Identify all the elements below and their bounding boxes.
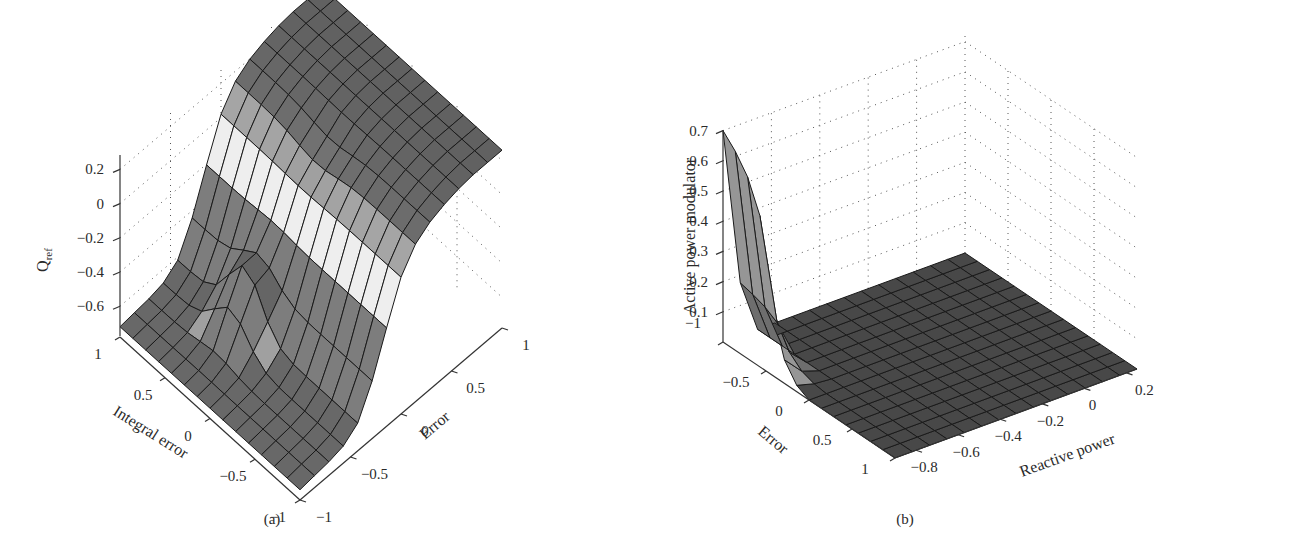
tick-label: −0.5 — [361, 466, 388, 482]
tick-label: 1 — [94, 346, 102, 362]
z-ticks-a: 0.20−0.2−0.4−0.6 — [77, 161, 120, 314]
figure: 0.20−0.2−0.4−0.6 10.50−0.5−1 −1−0.500.51… — [0, 0, 1305, 554]
tick-label: 1 — [861, 461, 869, 477]
tick-label: −0.6 — [77, 298, 105, 314]
tick-label: −0.2 — [77, 230, 104, 246]
tick-label: −0.4 — [995, 428, 1023, 444]
figure-canvas: 0.20−0.2−0.4−0.6 10.50−0.5−1 −1−0.500.51… — [0, 0, 1305, 554]
tick-label: −0.2 — [1037, 413, 1064, 429]
panel-label-a: (a) — [264, 511, 281, 528]
tick-label: −0.5 — [219, 468, 246, 484]
tick-label: −1 — [685, 315, 701, 331]
x-axis-title-b: Error — [755, 422, 792, 457]
tick-label: −0.8 — [910, 459, 937, 475]
tick-label: 0.5 — [813, 432, 832, 448]
surface-mesh-b — [723, 131, 1137, 458]
tick-label: 0 — [1089, 397, 1097, 413]
tick-label: 0 — [775, 403, 783, 419]
tick-label: 0 — [184, 428, 192, 444]
chart-panel-a: 0.20−0.2−0.4−0.6 10.50−0.5−1 −1−0.500.51… — [34, 0, 530, 528]
tick-label: 0.5 — [134, 387, 153, 403]
tick-label: 0.7 — [689, 123, 708, 139]
tick-label: −0.4 — [77, 264, 105, 280]
x-axis-title-a: Integral error — [110, 402, 192, 463]
tick-label: −1 — [316, 509, 332, 525]
tick-label: −0.6 — [953, 444, 981, 460]
tick-label: 0.2 — [1135, 382, 1154, 398]
z-axis-title-b: Active power modulator — [681, 157, 699, 314]
chart-panel-b: 0.70.60.50.40.30.20.1 −1−0.500.51 −0.8−0… — [681, 36, 1154, 528]
tick-label: 0.2 — [85, 161, 104, 177]
y-axis-title-b: Reactive power — [1017, 429, 1118, 480]
tick-label: 0 — [97, 196, 105, 212]
tick-label: −0.5 — [722, 374, 749, 390]
z-axis-title-a: Qref — [34, 248, 54, 272]
tick-label: 0.5 — [466, 380, 485, 396]
panel-label-b: (b) — [896, 511, 914, 528]
tick-label: 1 — [522, 337, 530, 353]
y-axis-title-a: Error — [416, 407, 453, 442]
